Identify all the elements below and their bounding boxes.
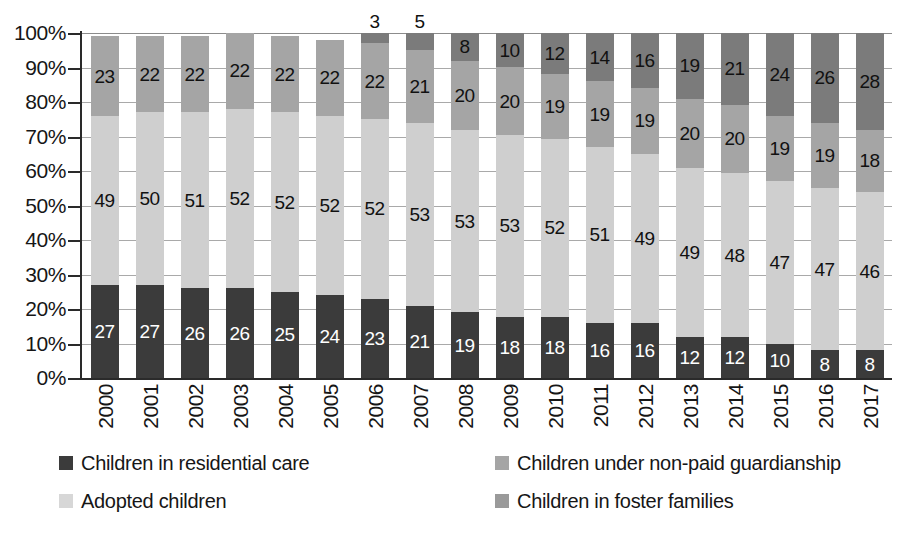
bar-segment-guardianship[interactable]: 22 bbox=[136, 36, 164, 112]
bar-column[interactable]: 2818468 bbox=[847, 33, 892, 378]
bar-segment-residential[interactable]: 27 bbox=[136, 285, 164, 378]
bar-segment-adopted[interactable]: 49 bbox=[676, 168, 704, 337]
bar-segment-adopted[interactable]: 49 bbox=[631, 154, 659, 323]
bar-segment-adopted[interactable]: 51 bbox=[586, 147, 614, 323]
bar-segment-guardianship[interactable]: 19 bbox=[586, 81, 614, 147]
bar-segment-foster[interactable]: 16 bbox=[631, 33, 659, 88]
bar-segment-residential[interactable]: 23 bbox=[361, 299, 389, 378]
bar-segment-residential[interactable]: 26 bbox=[226, 288, 254, 378]
bar-segment-guardianship[interactable]: 20 bbox=[451, 61, 479, 130]
bar-segment-foster[interactable]: 8 bbox=[451, 33, 479, 61]
x-axis-tick: 2017 bbox=[847, 382, 892, 444]
bar-segment-guardianship[interactable]: 19 bbox=[541, 74, 569, 139]
bar-segment-guardianship[interactable]: 20 bbox=[496, 67, 524, 135]
bar-column[interactable]: 225224 bbox=[307, 33, 352, 378]
bar-segment-residential[interactable]: 25 bbox=[271, 292, 299, 378]
bar-column[interactable]: 24194710 bbox=[757, 33, 802, 378]
bar-segment-foster[interactable]: 5 bbox=[406, 33, 434, 50]
bar-column[interactable]: 3225223 bbox=[352, 33, 397, 378]
bar-column[interactable]: 225225 bbox=[262, 33, 307, 378]
legend-item[interactable]: Children in foster families bbox=[495, 490, 733, 512]
bar-segment-foster[interactable]: 26 bbox=[811, 33, 839, 123]
bar-segment-residential[interactable]: 18 bbox=[541, 317, 569, 378]
bar-segment-value: 23 bbox=[94, 67, 114, 86]
bar-segment-residential[interactable]: 26 bbox=[181, 288, 209, 378]
bar-segment-adopted[interactable]: 52 bbox=[316, 116, 344, 295]
bar-segment-adopted[interactable]: 52 bbox=[361, 119, 389, 298]
bar-segment-foster[interactable]: 14 bbox=[586, 33, 614, 81]
bar-segment-residential[interactable]: 10 bbox=[766, 344, 794, 379]
bar-segment-foster[interactable]: 28 bbox=[856, 33, 884, 130]
legend-swatch-icon bbox=[495, 456, 509, 470]
bar-segment-foster[interactable]: 19 bbox=[676, 33, 704, 99]
legend-item[interactable]: Children under non-paid guardianship bbox=[495, 452, 841, 474]
bar-column[interactable]: 16194916 bbox=[622, 33, 667, 378]
x-axis-label: 2003 bbox=[229, 384, 250, 429]
bar-segment-adopted[interactable]: 49 bbox=[91, 116, 119, 285]
bar-segment-guardianship[interactable]: 18 bbox=[856, 130, 884, 192]
bar-segment-adopted[interactable]: 47 bbox=[811, 188, 839, 350]
bar-segment-foster[interactable]: 3 bbox=[361, 33, 389, 43]
bar-segment-guardianship[interactable]: 22 bbox=[361, 43, 389, 119]
bar-segment-foster[interactable]: 12 bbox=[541, 33, 569, 74]
legend-label: Children under non-paid guardianship bbox=[517, 452, 841, 474]
bar-segment-adopted[interactable]: 52 bbox=[271, 112, 299, 291]
bar-column[interactable]: 225027 bbox=[127, 33, 172, 378]
bar-segment-residential[interactable]: 21 bbox=[406, 306, 434, 378]
bar-column[interactable]: 14195116 bbox=[577, 33, 622, 378]
bar-segment-residential[interactable]: 12 bbox=[676, 337, 704, 378]
bar-segment-adopted[interactable]: 52 bbox=[226, 109, 254, 288]
bar-segment-foster[interactable]: 10 bbox=[496, 33, 524, 67]
bar-segment-guardianship[interactable]: 20 bbox=[721, 105, 749, 173]
bar-segment-guardianship[interactable]: 20 bbox=[676, 99, 704, 168]
bar-segment-adopted[interactable]: 51 bbox=[181, 112, 209, 288]
bar-segment-guardianship[interactable]: 22 bbox=[226, 33, 254, 109]
bar-column[interactable]: 2619478 bbox=[802, 33, 847, 378]
bar-segment-residential[interactable]: 18 bbox=[496, 317, 524, 378]
bar-segment-guardianship[interactable]: 19 bbox=[631, 88, 659, 154]
legend-item[interactable]: Children in residential care bbox=[59, 452, 309, 474]
bar-segment-residential[interactable]: 12 bbox=[721, 337, 749, 378]
bar-segment-foster[interactable]: 24 bbox=[766, 33, 794, 116]
x-axis-tick: 2014 bbox=[712, 382, 757, 444]
bar-segment-value: 20 bbox=[724, 129, 744, 148]
bar-column[interactable]: 21204812 bbox=[712, 33, 757, 378]
bar-stack: 234927 bbox=[91, 33, 119, 378]
bar-segment-guardianship[interactable]: 23 bbox=[91, 36, 119, 115]
bar-segment-guardianship[interactable]: 19 bbox=[766, 116, 794, 182]
bar-segment-residential[interactable]: 24 bbox=[316, 295, 344, 378]
bar-segment-residential[interactable]: 19 bbox=[451, 312, 479, 378]
x-axis-label: 2015 bbox=[769, 384, 790, 429]
bar-segment-adopted[interactable]: 53 bbox=[406, 123, 434, 306]
bar-segment-adopted[interactable]: 53 bbox=[451, 130, 479, 313]
bar-segment-residential[interactable]: 16 bbox=[631, 323, 659, 378]
y-tick-mark bbox=[68, 344, 80, 346]
bar-segment-guardianship[interactable]: 19 bbox=[811, 123, 839, 189]
bar-segment-adopted[interactable]: 52 bbox=[541, 139, 569, 317]
bar-segment-adopted[interactable]: 53 bbox=[496, 135, 524, 316]
bar-column[interactable]: 5215321 bbox=[397, 33, 442, 378]
bar-segment-guardianship[interactable]: 22 bbox=[181, 36, 209, 112]
bar-segment-guardianship[interactable]: 22 bbox=[271, 36, 299, 112]
bar-segment-adopted[interactable]: 46 bbox=[856, 192, 884, 351]
bar-column[interactable]: 8205319 bbox=[442, 33, 487, 378]
bar-segment-foster[interactable]: 21 bbox=[721, 33, 749, 105]
bar-segment-residential[interactable]: 8 bbox=[856, 350, 884, 378]
bar-column[interactable]: 12195218 bbox=[532, 33, 577, 378]
bar-segment-adopted[interactable]: 47 bbox=[766, 181, 794, 343]
bar-segment-adopted[interactable]: 50 bbox=[136, 112, 164, 285]
bar-column[interactable]: 225226 bbox=[217, 33, 262, 378]
bar-segment-value: 51 bbox=[184, 191, 204, 210]
bar-segment-adopted[interactable]: 48 bbox=[721, 173, 749, 337]
bar-segment-residential[interactable]: 16 bbox=[586, 323, 614, 378]
bar-segment-residential[interactable]: 27 bbox=[91, 285, 119, 378]
bar-column[interactable]: 234927 bbox=[82, 33, 127, 378]
bar-column[interactable]: 19204912 bbox=[667, 33, 712, 378]
legend-swatch-icon bbox=[59, 494, 73, 508]
bar-column[interactable]: 10205318 bbox=[487, 33, 532, 378]
bar-segment-residential[interactable]: 8 bbox=[811, 350, 839, 378]
legend-item[interactable]: Adopted children bbox=[59, 490, 226, 512]
bar-column[interactable]: 225126 bbox=[172, 33, 217, 378]
bar-segment-guardianship[interactable]: 22 bbox=[316, 40, 344, 116]
bar-segment-guardianship[interactable]: 21 bbox=[406, 50, 434, 122]
